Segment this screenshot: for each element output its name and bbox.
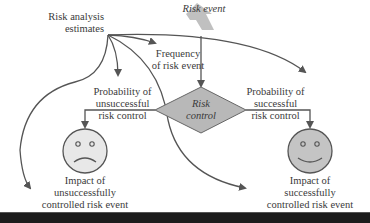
risk-analysis-line2: estimates [44,23,104,35]
happy-face-icon [288,129,332,173]
impact-successful-line1: Impact of [260,175,360,187]
arrow-to-prob-unsuccessful [108,35,118,75]
prob-unsuccessful-line1: Probability of [85,86,160,98]
sad-face-icon [63,129,107,173]
prob-unsuccessful-line3: risk control [85,110,160,122]
impact-successful-label: Impact of successfully controlled risk e… [260,175,360,211]
impact-unsuccessful-label: Impact of unsuccessfully controlled risk… [35,175,135,211]
frequency-line2: of risk event [138,60,218,72]
impact-unsuccessful-line2: unsuccessfully [35,187,135,199]
impact-successful-line3: controlled risk event [260,199,360,211]
prob-unsuccessful-line2: unsuccessful [85,98,160,110]
impact-unsuccessful-line1: Impact of [35,175,135,187]
frequency-line1: Frequency [138,48,218,60]
prob-successful-line3: risk control [238,110,313,122]
impact-successful-line2: successfully [260,187,360,199]
prob-unsuccessful-label: Probability of unsuccessful risk control [85,86,160,122]
risk-control-line2: control [171,110,231,122]
risk-control-diagram: Risk analysis estimates Risk event Frequ… [0,0,370,223]
prob-successful-line1: Probability of [238,86,313,98]
prob-successful-label: Probability of successful risk control [238,86,313,122]
frequency-label: Frequency of risk event [138,48,218,72]
risk-control-line1: Risk [171,98,231,110]
risk-analysis-label: Risk analysis estimates [44,11,104,35]
bottom-border-bar [0,212,370,223]
risk-control-label: Risk control [171,98,231,122]
risk-analysis-line1: Risk analysis [44,11,104,23]
risk-event-label: Risk event [174,3,234,15]
prob-successful-line2: successful [238,98,313,110]
impact-unsuccessful-line3: controlled risk event [35,199,135,211]
